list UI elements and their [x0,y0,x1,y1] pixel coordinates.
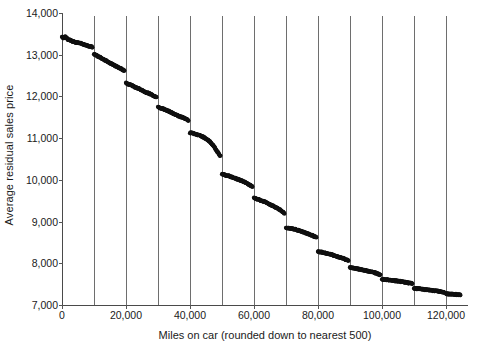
data-series-scatter [0,0,485,360]
figure-container: Average residual sales price 7,0008,0009… [0,0,485,360]
